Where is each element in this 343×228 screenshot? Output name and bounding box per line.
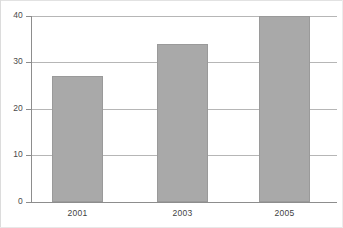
x-tick-label-2005: 2005 xyxy=(259,208,310,218)
y-tick-mark-0 xyxy=(26,202,31,203)
x-axis-line xyxy=(31,202,337,203)
y-tick-label-10: 10 xyxy=(0,150,23,159)
x-tick-label-2003: 2003 xyxy=(157,208,208,218)
y-tick-mark-10 xyxy=(26,155,31,156)
y-tick-mark-30 xyxy=(26,62,31,63)
y-axis-line xyxy=(31,16,32,203)
y-tick-label-30: 30 xyxy=(0,57,23,66)
y-tick-mark-40 xyxy=(26,16,31,17)
bar-2001[interactable] xyxy=(52,76,103,202)
y-tick-label-0: 0 xyxy=(0,197,23,206)
x-tick-label-2001: 2001 xyxy=(52,208,103,218)
bar-chart: 40 30 20 10 0 2001 2003 2005 xyxy=(0,0,343,228)
y-tick-mark-20 xyxy=(26,109,31,110)
y-tick-label-20: 20 xyxy=(0,104,23,113)
bar-2005[interactable] xyxy=(259,16,310,202)
y-axis-labels: 40 30 20 10 0 xyxy=(0,0,24,228)
y-tick-label-40: 40 xyxy=(0,11,23,20)
page-border-top xyxy=(0,0,343,1)
page-border-bottom xyxy=(0,227,343,228)
bar-2003[interactable] xyxy=(157,44,208,202)
